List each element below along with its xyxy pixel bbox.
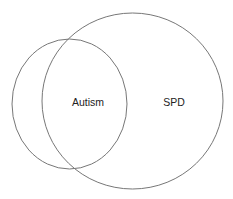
autism-set-circle <box>12 39 127 169</box>
venn-diagram: Autism SPD <box>0 0 233 199</box>
spd-label: SPD <box>163 96 185 108</box>
autism-label: Autism <box>72 96 104 108</box>
